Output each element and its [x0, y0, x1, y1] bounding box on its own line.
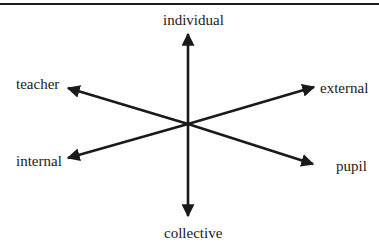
label-collective: collective — [164, 226, 222, 241]
arrow-axes — [0, 0, 379, 246]
label-internal: internal — [16, 154, 62, 169]
arrow-internal — [68, 124, 188, 158]
label-individual: individual — [163, 13, 224, 28]
label-pupil: pupil — [336, 159, 367, 174]
label-external: external — [320, 81, 368, 96]
label-teacher: teacher — [16, 77, 59, 92]
arrow-external — [188, 87, 314, 124]
arrow-teacher — [68, 88, 188, 124]
axes-diagram: individual collective teacher internal e… — [0, 0, 379, 246]
arrow-pupil — [188, 124, 313, 164]
